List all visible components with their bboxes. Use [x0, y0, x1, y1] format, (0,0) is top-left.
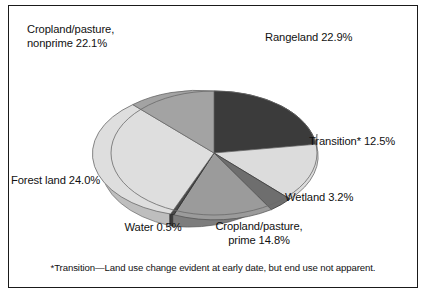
slice-label-cropland-prime: Cropland/pasture, prime 14.8% [199, 220, 319, 247]
slice-label-wetland: Wetland 3.2% [285, 191, 405, 205]
slice-label-water: Water 0.5% [105, 221, 201, 235]
slice-label-cropland-nonprime: Cropland/pasture, nonprime 22.1% [27, 23, 177, 50]
slice-rangeland[interactable] [214, 91, 316, 153]
slice-label-forest-land: Forest land 24.0% [11, 174, 136, 188]
chart-footnote: *Transition—Land use change evident at e… [9, 262, 417, 273]
slice-label-transition: Transition* 12.5% [309, 135, 426, 149]
figure-frame: Cropland/pasture, nonprime 22.1% Rangela… [8, 5, 418, 288]
slice-label-rangeland: Rangeland 22.9% [265, 31, 415, 45]
